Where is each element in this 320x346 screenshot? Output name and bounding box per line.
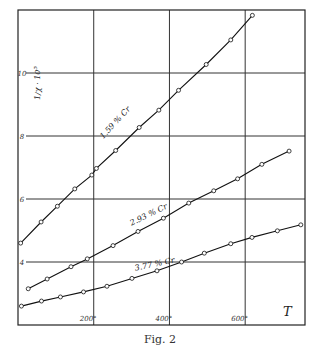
series-line xyxy=(28,151,289,289)
data-point xyxy=(177,88,181,92)
data-point xyxy=(55,204,59,208)
data-point xyxy=(82,290,86,294)
data-point xyxy=(229,38,233,42)
data-point xyxy=(85,257,89,261)
y-axis-label: 1/χ · 10⁵ xyxy=(33,66,42,100)
data-point xyxy=(229,242,233,246)
tick-labels: 200°400°600°46810 xyxy=(18,70,249,324)
data-point xyxy=(260,162,264,166)
series-line xyxy=(21,15,253,243)
data-point xyxy=(180,260,184,264)
figure-caption: Fig. 2 xyxy=(0,333,320,346)
data-point xyxy=(130,276,134,280)
data-point xyxy=(155,269,159,273)
y-tick-label: 10 xyxy=(18,70,27,78)
data-point xyxy=(202,251,206,255)
data-point xyxy=(26,287,30,291)
data-point xyxy=(94,166,98,170)
plot-frame xyxy=(18,10,305,325)
data-point xyxy=(90,173,94,177)
data-point xyxy=(39,220,43,224)
data-point xyxy=(137,125,141,129)
curve-label: 2.93 % Cr xyxy=(128,201,170,228)
data-point xyxy=(114,148,118,152)
data-point xyxy=(299,223,303,227)
x-tick-label: 400° xyxy=(154,315,172,323)
grid-lines xyxy=(26,10,305,325)
data-point xyxy=(287,149,291,153)
x-tick-label: 600° xyxy=(231,315,248,323)
data-point xyxy=(58,295,62,299)
data-point xyxy=(212,189,216,193)
data-point xyxy=(105,284,109,288)
y-tick-label: 8 xyxy=(20,133,25,141)
data-point xyxy=(187,201,191,205)
data-point xyxy=(111,244,115,248)
data-point xyxy=(19,304,23,308)
data-point xyxy=(161,216,165,220)
data-point xyxy=(204,62,208,66)
curve-label: 1.59 % Cr xyxy=(98,104,133,141)
data-point xyxy=(250,235,254,239)
data-point xyxy=(39,299,43,303)
data-point xyxy=(73,187,77,191)
data-point xyxy=(236,177,240,181)
data-point xyxy=(69,265,73,269)
data-point xyxy=(45,277,49,281)
data-point xyxy=(136,229,140,233)
x-tick-label: 200° xyxy=(79,315,97,323)
data-point xyxy=(157,108,161,112)
data-point xyxy=(250,13,254,17)
y-tick-label: 6 xyxy=(20,196,25,204)
data-point xyxy=(19,241,23,245)
y-tick-label: 4 xyxy=(19,259,24,267)
x-axis-label: T xyxy=(283,304,293,319)
data-point xyxy=(275,229,279,233)
